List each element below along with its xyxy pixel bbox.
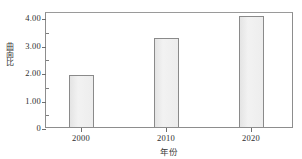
x-tick-mark-2010 (166, 128, 167, 132)
y-tick-mark-1 (42, 102, 46, 103)
x-tick-label-2020: 2020 (242, 133, 260, 143)
bar-2000 (69, 75, 94, 127)
plot-area (45, 12, 293, 128)
y-tick-label-2: 2.00 (12, 68, 41, 78)
y-minor-tick-1-5 (46, 88, 49, 89)
x-axis-area: 2000 2010 2020 年份 (45, 128, 293, 159)
bar-2020 (239, 16, 264, 127)
bar-2010 (154, 38, 179, 127)
y-axis-tick-labels: 4.00 3.00 2.00 1.00 0 (12, 0, 41, 159)
y-tick-mark-2 (42, 74, 46, 75)
y-tick-label-0: 0 (12, 123, 41, 133)
plot-inner (46, 13, 292, 127)
y-tick-mark-4 (42, 19, 46, 20)
x-tick-mark-2020 (251, 128, 252, 132)
bar-chart-figure: 曲面比 4.00 3.00 2.00 1.00 0 (0, 0, 302, 159)
y-tick-label-1: 1.00 (12, 96, 41, 106)
y-tick-mark-3 (42, 47, 46, 48)
x-tick-mark-2000 (81, 128, 82, 132)
x-tick-label-2000: 2000 (72, 133, 90, 143)
y-minor-tick-0-5 (46, 115, 49, 116)
y-tick-label-3: 3.00 (12, 41, 41, 51)
y-minor-tick-3-5 (46, 33, 49, 34)
y-tick-label-4: 4.00 (12, 13, 41, 23)
x-tick-label-2010: 2010 (157, 133, 175, 143)
y-minor-tick-2-5 (46, 60, 49, 61)
x-axis-title: 年份 (160, 145, 178, 157)
